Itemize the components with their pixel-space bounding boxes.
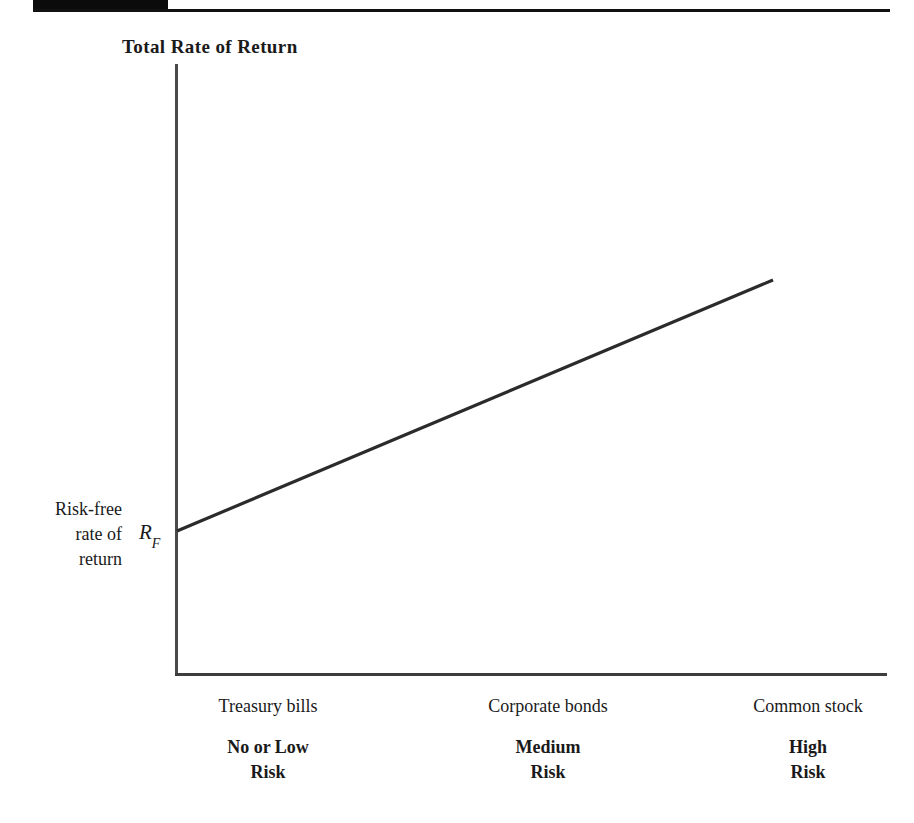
risk-free-rate-symbol-subscript: F (152, 536, 161, 551)
y-axis-label-line-2: rate of (12, 522, 122, 547)
category-corporate-bonds: Corporate bonds Medium Risk (428, 694, 668, 785)
category-common-stock: Common stock High Risk (688, 694, 914, 785)
category-risk-line-1: Medium (428, 735, 668, 760)
category-risk-label: No or Low Risk (148, 735, 388, 785)
category-risk-label: Medium Risk (428, 735, 668, 785)
category-instrument-label: Corporate bonds (428, 694, 668, 718)
y-axis-line (175, 64, 178, 676)
category-risk-label: High Risk (688, 735, 914, 785)
risk-free-rate-symbol-base: R (139, 520, 152, 544)
risk-return-trend-line (177, 280, 773, 531)
y-axis-label: Risk-free rate of return (12, 497, 122, 572)
x-axis-line (175, 673, 887, 676)
y-axis-label-line-3: return (12, 547, 122, 572)
category-risk-line-2: Risk (688, 760, 914, 785)
category-risk-line-1: No or Low (148, 735, 388, 760)
risk-return-chart: Total Rate of Return Risk-free rate of r… (0, 0, 914, 823)
risk-free-rate-symbol: RF (139, 520, 160, 548)
y-axis-label-line-1: Risk-free (12, 497, 122, 522)
category-instrument-label: Common stock (688, 694, 914, 718)
category-risk-line-2: Risk (148, 760, 388, 785)
category-risk-line-2: Risk (428, 760, 668, 785)
page-title: Total Rate of Return (122, 36, 298, 58)
category-instrument-label: Treasury bills (148, 694, 388, 718)
category-treasury-bills: Treasury bills No or Low Risk (148, 694, 388, 785)
category-risk-line-1: High (688, 735, 914, 760)
